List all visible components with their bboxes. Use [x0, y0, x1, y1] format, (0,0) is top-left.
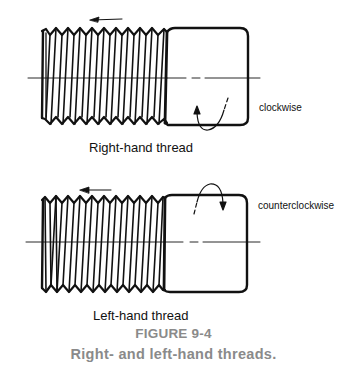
left-hand-thread-drawing [26, 184, 260, 292]
thread-lines [45, 196, 163, 292]
square-end [164, 195, 247, 292]
left-hand-thread-title: Left-hand thread [93, 308, 188, 323]
arrow-left-icon [80, 187, 111, 193]
thread-crest-bottom [42, 117, 167, 124]
arrow-left-icon [90, 17, 122, 22]
figure-caption: Right- and left-hand threads. [0, 346, 347, 362]
curved-arrow-icon [194, 184, 226, 214]
right-hand-thread-drawing [28, 17, 260, 130]
thread-crest-bottom [42, 285, 165, 292]
figure-number: FIGURE 9-4 [0, 326, 347, 341]
square-end [165, 28, 248, 125]
right-hand-thread-title: Right-hand thread [89, 140, 193, 155]
rotation-label-counterclockwise: counterclockwise [258, 200, 334, 211]
rotation-label-clockwise: clockwise [259, 102, 302, 113]
thread-lines [46, 28, 164, 124]
